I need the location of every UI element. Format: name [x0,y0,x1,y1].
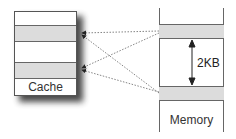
dotted-arrow-lower-to-line2 [82,35,159,93]
dotted-arrow-upper-to-line2 [82,31,159,33]
double-arrow-icon [189,40,195,85]
mapping-arrows [0,0,236,139]
dotted-arrow-lower-to-line4 [82,70,159,92]
cache-memory-mapping-diagram: Cache 2KB Memory [0,0,236,139]
dotted-arrow-upper-to-line4 [82,33,159,68]
